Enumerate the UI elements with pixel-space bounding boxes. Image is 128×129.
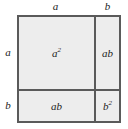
region-ab-right: ab: [96, 17, 119, 89]
dimension-label-left-a: a: [1, 47, 15, 58]
outer-square: a2 ab ab b2: [17, 15, 121, 123]
dimension-label-top-b: b: [94, 1, 121, 12]
region-b-squared: b2: [96, 91, 119, 121]
dimension-label-top-a: a: [17, 1, 94, 12]
binomial-square-diagram: a b a b a2 ab ab b2: [0, 0, 128, 129]
divider-horizontal: [19, 89, 119, 91]
region-ab-bottom: ab: [19, 91, 94, 121]
divider-vertical: [94, 17, 96, 121]
region-label-b-squared: b2: [103, 100, 112, 112]
region-label-ab-bottom: ab: [51, 100, 62, 112]
region-a-squared: a2: [19, 17, 94, 89]
region-label-a-squared: a2: [52, 47, 61, 59]
dimension-label-left-b: b: [1, 100, 15, 111]
region-label-ab-right: ab: [102, 47, 113, 59]
